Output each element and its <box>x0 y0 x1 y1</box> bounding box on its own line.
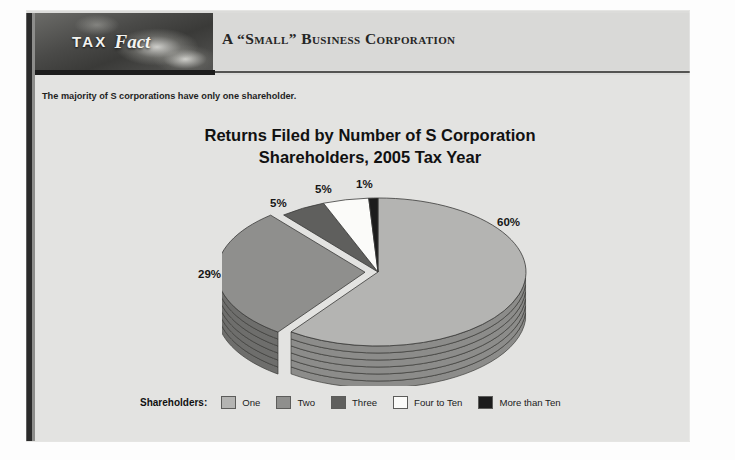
document-page: TAX Fact A “Small” Business Corporation … <box>0 0 735 460</box>
page-edge <box>26 10 690 442</box>
